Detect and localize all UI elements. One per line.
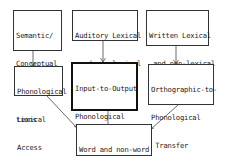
box-text: Phonological — [75, 112, 134, 121]
box-text: Phonological — [151, 113, 211, 122]
box-text: Word and non-word — [79, 145, 149, 154]
box-phonological-lexical-access: Phonological Lexical Access — [14, 66, 63, 96]
box-text: Access — [17, 143, 60, 152]
box-semantic-representations: Semantic/ Conceptual Representa- tions — [13, 10, 62, 51]
box-text: Written Lexical — [149, 31, 206, 40]
box-text: Semantic/ — [16, 31, 59, 40]
box-sound-production: Word and non-word Sound Production Mecha… — [76, 124, 152, 156]
box-orthographic-transfer: Orthographic-to- Phonological Transfer M… — [148, 64, 214, 105]
box-written-stimuli: Written Lexical and non-lexical Stimuli — [146, 10, 209, 46]
box-auditory-stimuli: Auditory Lexical and non-lexical Stimuli — [72, 10, 138, 41]
box-text: Auditory Lexical — [75, 31, 135, 40]
box-text: Orthographic-to- — [151, 85, 211, 94]
box-text: Input-to-Output — [75, 84, 134, 93]
box-text: Lexical — [17, 115, 60, 124]
box-text: Phonological — [17, 87, 60, 96]
box-text: Transfer — [151, 141, 211, 150]
box-input-output-transfer: Input-to-Output Phonological Transfer Me… — [71, 62, 138, 111]
